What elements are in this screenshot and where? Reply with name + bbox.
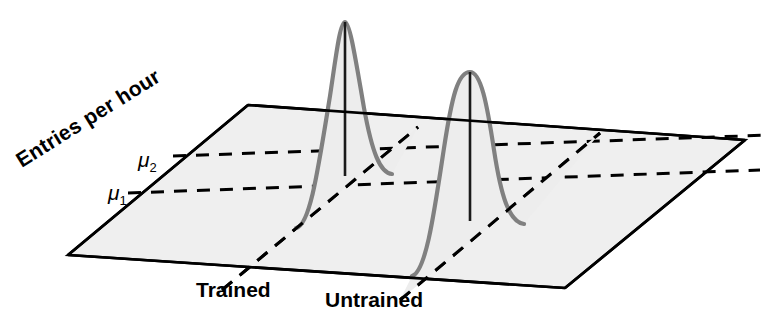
mu1-symbol: μ [108,181,120,204]
figure-canvas: Entries per hour μ2 μ1 Trained Untrained [0,0,777,327]
mu1-subscript: 1 [120,193,127,208]
mu2-axis-tick-label: μ2 [138,148,157,175]
x-axis-label-untrained: Untrained [325,288,423,312]
x-axis-label-trained: Trained [196,278,271,302]
mu1-axis-tick-label: μ1 [108,181,127,208]
mu2-symbol: μ [138,148,150,171]
surface-plot-svg [0,0,777,327]
mu2-subscript: 2 [150,160,157,175]
